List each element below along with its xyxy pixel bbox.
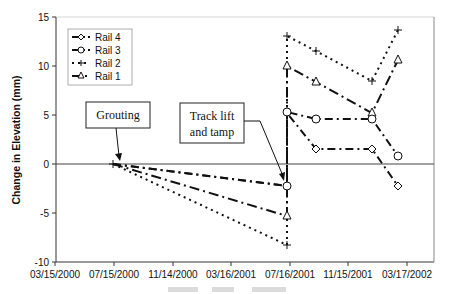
arrow-icon: [244, 121, 283, 176]
svg-text:Rail 1: Rail 1: [95, 71, 121, 82]
x-tick-label: 11/14/2000: [148, 269, 198, 280]
y-tick-label: 0: [43, 159, 49, 170]
y-tick-label: 10: [38, 61, 50, 72]
annotation-track-lift: Track lift and tamp: [180, 103, 285, 181]
series-rail-2-markers: [109, 26, 402, 249]
series-rail-3-markers: [283, 108, 402, 190]
x-tick-label: 03/16/2001: [206, 269, 256, 280]
svg-text:Track lift: Track lift: [190, 109, 235, 123]
svg-text:Rail 3: Rail 3: [95, 45, 121, 56]
series-rail-3-line: [113, 112, 398, 186]
legend: Rail 4 Rail 3 Rail 2 Rail 1: [68, 29, 132, 85]
y-tick-label: -5: [40, 208, 49, 219]
caption-fragment: [168, 287, 286, 292]
arrow-icon: [116, 128, 119, 156]
y-tick-label: 15: [38, 12, 50, 23]
x-tick-label: 03/15/2000: [30, 269, 80, 280]
y-axis-label: Change in Elevation (mm): [10, 76, 22, 205]
arrowhead-icon: [115, 153, 122, 161]
elevation-chart: 15 10 5 0 -5 -10 03/15/2000 07/15/2000 1…: [0, 0, 451, 294]
y-tick-label: -10: [35, 257, 50, 268]
series-rail-2-line: [113, 30, 398, 245]
x-tick-label: 11/15/2001: [323, 269, 373, 280]
series-rail-4-markers: [312, 145, 402, 190]
svg-text:and tamp: and tamp: [190, 125, 234, 139]
y-tick-label: 5: [43, 110, 49, 121]
y-ticks: 15 10 5 0 -5 -10: [35, 12, 56, 268]
series-rail-1-markers: [283, 55, 402, 219]
arrowhead-icon: [279, 172, 285, 181]
x-tick-label: 03/17/2002: [382, 269, 432, 280]
x-tick-label: 07/15/2000: [89, 269, 139, 280]
series-rail-4-line: [113, 113, 398, 186]
x-ticks: 03/15/2000 07/15/2000 11/14/2000 03/16/2…: [30, 262, 432, 280]
annotation-grouting: Grouting: [86, 102, 150, 161]
svg-text:Grouting: Grouting: [96, 108, 139, 122]
x-tick-label: 07/16/2001: [265, 269, 315, 280]
series-rail-1-line: [113, 60, 398, 216]
svg-text:Rail 2: Rail 2: [95, 58, 121, 69]
svg-text:Rail 4: Rail 4: [95, 32, 121, 43]
